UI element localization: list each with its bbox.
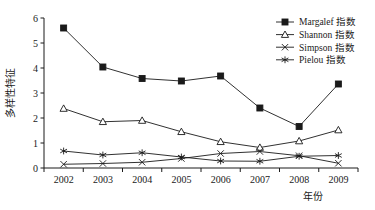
legend-label: Shannon 指数 (299, 29, 355, 40)
y-axis-tick-label: 5 (33, 38, 38, 49)
y-axis-tick-label: 3 (33, 88, 38, 99)
marker-filled-square (139, 76, 145, 82)
series-line (64, 28, 339, 127)
y-axis-tick-label: 2 (33, 113, 38, 124)
marker-open-triangle (139, 117, 146, 123)
series-1 (61, 25, 342, 130)
y-axis-tick-label: 0 (33, 163, 38, 174)
x-axis-tick-label: 2008 (289, 174, 309, 185)
y-axis-tick-label: 6 (33, 13, 38, 24)
legend-label: Simpson 指数 (299, 42, 355, 53)
marker-open-triangle (60, 105, 67, 111)
y-axis-tick-label: 4 (33, 63, 38, 74)
marker-filled-square (257, 105, 263, 111)
marker-filled-square (296, 124, 302, 130)
legend-item-3: Simpson 指数 (276, 42, 355, 53)
marker-filled-square (218, 73, 224, 79)
legend-item-2: Shannon 指数 (276, 29, 355, 40)
x-axis-title: 年份 (303, 190, 323, 202)
x-axis-tick-label: 2003 (93, 174, 113, 185)
x-axis-tick-label: 2006 (211, 174, 231, 185)
x-axis-tick-label: 2009 (328, 174, 348, 185)
marker-open-triangle (335, 126, 342, 132)
marker-filled-square (178, 78, 184, 84)
marker-filled-square (61, 25, 67, 31)
chart-canvas: 012345620022003200420052006200720082009多… (0, 0, 375, 210)
y-axis-title: 多样性特征 (4, 68, 16, 118)
x-axis-tick-label: 2005 (171, 174, 191, 185)
y-axis-tick-label: 1 (33, 138, 38, 149)
x-axis-tick-label: 2004 (132, 174, 152, 185)
marker-filled-square (335, 81, 341, 87)
legend-label: Pielou 指数 (299, 54, 346, 65)
marker-filled-square (282, 19, 288, 25)
legend-item-1: Margalef 指数 (276, 16, 356, 27)
legend-item-4: Pielou 指数 (276, 54, 346, 65)
x-axis-tick-label: 2002 (54, 174, 74, 185)
legend-label: Margalef 指数 (299, 16, 356, 27)
marker-filled-square (100, 64, 106, 70)
x-axis-tick-label: 2007 (250, 174, 270, 185)
diversity-index-line-chart: 012345620022003200420052006200720082009多… (0, 0, 375, 210)
